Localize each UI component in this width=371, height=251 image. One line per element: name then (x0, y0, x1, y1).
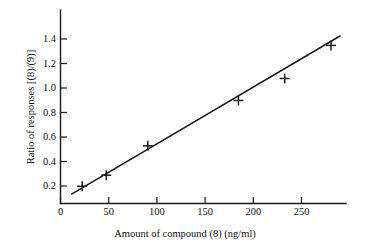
data-point-3 (143, 141, 153, 151)
x-tick-label-100: 100 (149, 207, 165, 218)
x-axis-title: Amount of compound (8) (ng/ml) (114, 229, 256, 240)
y-tick-label-0.2: 0.2 (43, 181, 56, 192)
y-tick-label-0.4: 0.4 (43, 156, 56, 167)
trend-line (72, 36, 340, 194)
data-point-4 (233, 96, 243, 106)
chart-figure: 0 50 100 150 200 250 0.2 0.4 0.6 0.8 1.0… (0, 0, 371, 251)
x-tick-label-250: 250 (294, 207, 310, 218)
y-tick-label-0.6: 0.6 (43, 132, 56, 143)
y-tick-label-0.8: 0.8 (43, 107, 56, 118)
y-tick-label-1.2: 1.2 (43, 58, 56, 69)
x-tick-label-200: 200 (245, 207, 261, 218)
x-tick-label-150: 150 (197, 207, 213, 218)
y-axis-ticks (61, 39, 68, 186)
data-point-6 (326, 40, 336, 50)
x-tick-label-0: 0 (58, 207, 63, 218)
data-point-5 (280, 74, 290, 84)
y-axis-title: Ratio of responses [(8)/(9)] (26, 50, 37, 165)
x-axis-ticks (61, 197, 302, 204)
y-tick-label-1.4: 1.4 (43, 34, 56, 45)
x-tick-label-50: 50 (103, 207, 114, 218)
y-tick-label-1.0: 1.0 (43, 83, 56, 94)
